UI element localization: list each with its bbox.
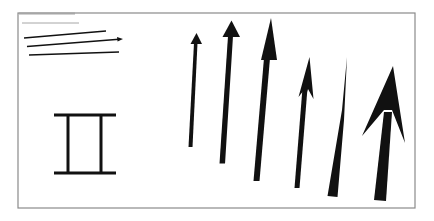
arrow-6-shaft — [374, 112, 392, 201]
arrow-1-head — [191, 33, 203, 44]
arrow-5 — [328, 57, 348, 197]
thin-line-1 — [24, 31, 106, 38]
arrow-3-shaft — [254, 58, 271, 181]
thin-arrow — [27, 37, 123, 47]
diagram-canvas — [0, 0, 434, 221]
arrow-4-head — [299, 57, 314, 99]
thin-line-3 — [29, 52, 119, 55]
arrow-2 — [220, 21, 241, 164]
arrow-5-needle — [328, 57, 348, 197]
i-beam — [54, 115, 116, 173]
arrow-4 — [295, 57, 314, 188]
arrow-2-head — [223, 21, 241, 38]
arrow-3 — [254, 18, 278, 181]
arrow-3-head — [261, 18, 277, 60]
thin-arrow-shaft — [27, 39, 119, 46]
arrow-2-shaft — [220, 36, 234, 164]
arrow-1 — [189, 33, 203, 147]
arrow-4-shaft — [295, 88, 308, 188]
arrow-6 — [362, 66, 405, 201]
thin-arrow-head — [117, 37, 123, 41]
arrow-1-shaft — [189, 43, 198, 147]
